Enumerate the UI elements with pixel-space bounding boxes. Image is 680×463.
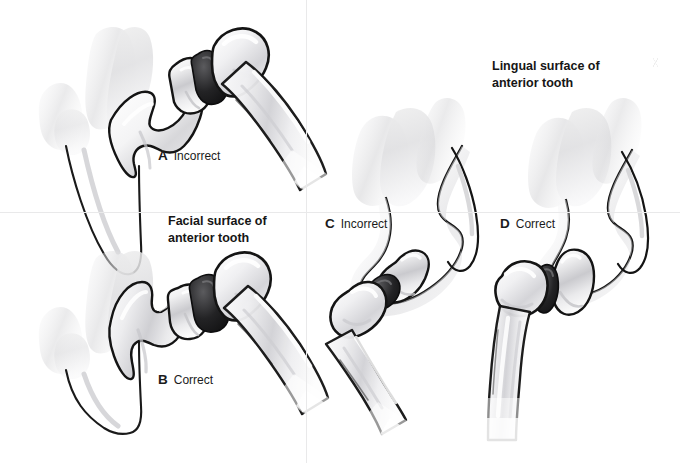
panel-verdict-a: Incorrect [174, 149, 221, 163]
panel-label-b: BCorrect [158, 373, 213, 387]
panel-d-adjacent-teeth [528, 98, 642, 208]
panel-verdict-d: Correct [516, 217, 555, 231]
panel-letter-a: A [158, 148, 168, 163]
panel-verdict-b: Correct [174, 373, 213, 387]
panel-c-handpiece-head [330, 282, 386, 338]
panel-letter-d: D [500, 216, 510, 231]
panel-c-handpiece-shaft [326, 330, 418, 456]
panel-c-illustration [326, 98, 478, 456]
panel-b-handpiece-shaft [224, 286, 338, 430]
panel-label-a: AIncorrect [158, 149, 220, 163]
panel-verdict-c: Incorrect [341, 217, 388, 231]
panel-divider-vertical [306, 0, 307, 463]
panel-label-c: CIncorrect [325, 217, 387, 231]
scan-speck-artifact [652, 58, 659, 67]
caption-lingual-surface: Lingual surface of anterior tooth [492, 58, 600, 91]
panel-label-d: DCorrect [500, 217, 555, 231]
panel-d-handpiece-shaft [486, 306, 530, 448]
dental-figure: Facial surface of anterior tooth Lingual… [0, 0, 680, 463]
caption-facial-surface: Facial surface of anterior tooth [168, 213, 267, 246]
panel-divider-horizontal [0, 212, 680, 213]
panel-a-handpiece-shaft [222, 62, 336, 206]
panel-d-illustration [486, 98, 648, 448]
panel-b-illustration [39, 251, 338, 434]
panel-letter-c: C [325, 216, 335, 231]
panel-letter-b: B [158, 372, 168, 387]
